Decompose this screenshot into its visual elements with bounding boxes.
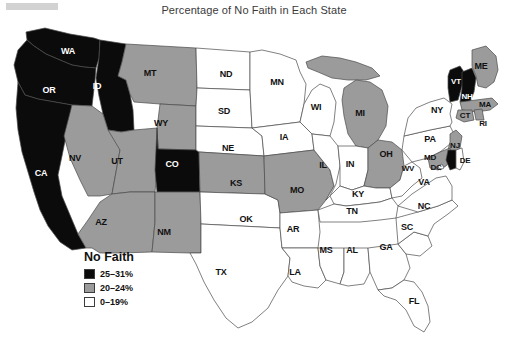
state-label-FL: FL — [409, 296, 420, 306]
state-MI-lower — [342, 80, 388, 148]
state-label-MN: MN — [270, 77, 284, 87]
legend-item-low: 0–19% — [84, 295, 134, 308]
state-label-NC: NC — [418, 201, 431, 211]
state-label-GA: GA — [379, 242, 392, 252]
map-legend: No Faith 25–31% 20–24% 0–19% — [84, 250, 134, 309]
state-label-TX: TX — [215, 267, 226, 277]
state-label-NM: NM — [157, 227, 171, 237]
state-label-SC: SC — [401, 222, 413, 232]
legend-item-high: 25–31% — [84, 267, 134, 280]
legend-item-mid: 20–24% — [84, 281, 134, 294]
state-label-WA: WA — [61, 46, 75, 56]
state-label-SD: SD — [218, 106, 230, 116]
state-label-CO: CO — [165, 159, 178, 169]
state-NM — [152, 192, 201, 253]
state-label-NE: NE — [222, 143, 234, 153]
state-label-AZ: AZ — [95, 217, 107, 227]
state-label-MD: MD — [424, 153, 436, 162]
state-label-NJ: NJ — [450, 141, 460, 150]
state-label-LA: LA — [289, 267, 301, 277]
state-label-CA: CA — [35, 168, 48, 178]
state-AZ — [78, 192, 155, 253]
state-label-KY: KY — [352, 189, 364, 199]
state-label-TN: TN — [346, 206, 358, 216]
legend-swatch-mid — [84, 283, 95, 293]
state-label-OK: OK — [239, 214, 252, 224]
state-label-IN: IN — [346, 159, 355, 169]
state-MN — [250, 50, 306, 128]
state-label-UT: UT — [111, 156, 123, 166]
legend-label-low: 0–19% — [100, 297, 128, 307]
state-label-AR: AR — [287, 224, 300, 234]
map-figure: Percentage of No Faith in Each State — [0, 0, 508, 340]
state-label-WV: WV — [402, 164, 415, 173]
state-MI-upper — [306, 56, 380, 80]
state-label-MT: MT — [144, 68, 157, 78]
state-label-DC: DC — [430, 163, 441, 172]
state-MD-narrow — [446, 150, 456, 170]
state-label-IA: IA — [280, 132, 289, 142]
legend-label-high: 25–31% — [100, 269, 133, 279]
legend-label-mid: 20–24% — [100, 283, 133, 293]
state-TX — [190, 224, 290, 328]
state-label-MS: MS — [319, 245, 332, 255]
state-label-NY: NY — [431, 105, 443, 115]
state-label-ID: ID — [93, 81, 102, 91]
state-label-VT: VT — [451, 77, 461, 86]
state-label-NV: NV — [69, 153, 81, 163]
state-label-MA: MA — [479, 100, 491, 109]
legend-swatch-high — [84, 269, 95, 279]
state-label-PA: PA — [424, 134, 435, 144]
state-label-IL: IL — [319, 160, 327, 170]
state-label-DE: DE — [460, 156, 471, 165]
state-label-MI: MI — [355, 108, 365, 118]
state-label-NH: NH — [461, 92, 472, 101]
us-choropleth-map — [0, 10, 508, 340]
state-label-OR: OR — [42, 85, 55, 95]
legend-swatch-low — [84, 297, 95, 307]
state-label-OH: OH — [379, 149, 392, 159]
state-label-CT: CT — [460, 111, 470, 120]
state-label-MO: MO — [290, 185, 304, 195]
state-label-AL: AL — [346, 245, 358, 255]
state-label-ND: ND — [220, 69, 233, 79]
state-label-ME: ME — [474, 61, 487, 71]
state-label-VA: VA — [418, 177, 429, 187]
state-label-WI: WI — [311, 102, 322, 112]
state-label-KS: KS — [230, 178, 242, 188]
state-OH — [364, 140, 404, 188]
legend-heading: No Faith — [84, 250, 134, 264]
state-label-RI: RI — [479, 119, 487, 128]
state-label-WY: WY — [154, 118, 168, 128]
